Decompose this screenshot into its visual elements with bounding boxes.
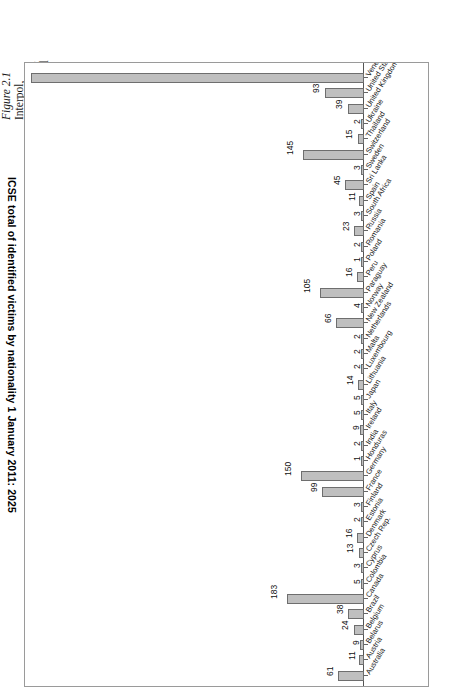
bar-value-label: 3: [353, 165, 362, 170]
bar-value-label: 99: [310, 482, 319, 491]
bar-value-label: 15: [345, 130, 354, 139]
bar-value-label: 61: [326, 666, 335, 675]
bar: [336, 318, 364, 328]
axis-tick: [364, 276, 368, 277]
bar-value-label: 66: [324, 314, 333, 323]
axis-tick: [364, 552, 368, 553]
bar-row: 2Estonia: [31, 515, 364, 529]
chart-title: ICSE total of identified victims by nati…: [2, 0, 22, 690]
bar-row: 15Thailand: [31, 132, 364, 146]
bar-value-label: 4: [353, 303, 362, 308]
axis-tick: [364, 475, 368, 476]
bar-row: 93United States: [31, 86, 364, 100]
bar-value-label: 9: [352, 640, 361, 645]
bar-row: 23Russia: [31, 224, 364, 238]
bar-row: 39United Kingdom: [31, 102, 364, 116]
bar-row: 145Switzerland: [31, 148, 364, 162]
bar-value-label: 38: [336, 605, 345, 614]
bar-value-label: 3: [353, 211, 362, 216]
bar-row: 2Luxembourg: [31, 362, 364, 376]
bar-row: 2Ukraine: [31, 117, 364, 131]
bar-row: 38Brazil: [31, 607, 364, 621]
axis-tick: [364, 184, 368, 185]
bar-value-label: 2: [353, 349, 362, 354]
bar-row: 2India: [31, 439, 364, 453]
axis-tick: [364, 200, 368, 201]
axis-tick: [364, 353, 368, 354]
bar: [31, 73, 364, 83]
axis-tick: [364, 338, 368, 339]
axis-tick: [364, 644, 368, 645]
axis-tick: [364, 567, 368, 568]
axis-tick: [364, 445, 368, 446]
axis-tick: [364, 92, 368, 93]
bar-value-label: 93: [312, 84, 321, 93]
axis-tick: [364, 583, 368, 584]
bar-row: 5Colombia: [31, 577, 364, 591]
bar-row: 1Poland: [31, 255, 364, 269]
bar: [287, 594, 364, 604]
axis-tick: [364, 675, 368, 676]
axis-tick: [364, 384, 368, 385]
bar-row: 790Venezuela: [31, 71, 364, 85]
bar-series: 61Australia11Austria9Belarus24Belgium38B…: [25, 63, 428, 686]
axis-tick: [364, 322, 368, 323]
axis-tick: [364, 292, 368, 293]
bar-value-label: 5: [353, 410, 362, 415]
axis-tick: [364, 230, 368, 231]
axis-tick: [364, 613, 368, 614]
bar-value-label: 13: [346, 544, 355, 553]
bar-row: 45Sri Lanka: [31, 178, 364, 192]
bar: [320, 288, 364, 298]
bar: [301, 471, 364, 481]
bar-value-label: 5: [353, 579, 362, 584]
axis-tick: [364, 215, 368, 216]
bar: [359, 548, 364, 558]
bar-value-label: 14: [346, 375, 355, 384]
bar: [359, 196, 364, 206]
bar: [358, 380, 364, 390]
axis-tick: [364, 154, 368, 155]
bar-row: 150Germany: [31, 469, 364, 483]
bar: [338, 671, 364, 681]
bar-row: 14Lithuania: [31, 378, 364, 392]
bar: [357, 533, 364, 543]
bar-value-label: 3: [353, 564, 362, 569]
bar-row: 3Sweden: [31, 163, 364, 177]
bar-row: 3Cyprus: [31, 561, 364, 575]
bar-row: 2Romania: [31, 240, 364, 254]
bar-value-label: 24: [341, 620, 350, 629]
bar-value-label: 5: [353, 395, 362, 400]
bar-value-label: 45: [333, 176, 342, 185]
bar: [354, 625, 364, 635]
axis-tick: [364, 169, 368, 170]
bar-value-label: 3: [353, 502, 362, 507]
bar-row: 9Belarus: [31, 638, 364, 652]
bar-row: 105Paraguay: [31, 286, 364, 300]
bar: [357, 272, 364, 282]
bar-value-label: 39: [335, 99, 344, 108]
axis-tick: [364, 414, 368, 415]
axis-tick: [364, 108, 368, 109]
axis-tick: [364, 598, 368, 599]
bar-row: 4Norway: [31, 301, 364, 315]
bar-value-label: 23: [342, 222, 351, 231]
bar: [348, 104, 364, 114]
bar-row: 1Honduras: [31, 454, 364, 468]
bar: [348, 609, 364, 619]
axis-tick: [364, 491, 368, 492]
bar-row: 183Canada: [31, 592, 364, 606]
chart-plot-area: 61Australia11Austria9Belarus24Belgium38B…: [24, 62, 429, 687]
bar: [358, 134, 364, 144]
bar-row: 16Peru: [31, 270, 364, 284]
bar-value-label: 11: [348, 192, 357, 201]
bar-row: 2Malta: [31, 347, 364, 361]
axis-tick: [364, 246, 368, 247]
bar-row: 2Netherlands: [31, 332, 364, 346]
bar: [325, 88, 364, 98]
bar-value-label: 1: [353, 456, 362, 461]
bar-row: 9Ireland: [31, 423, 364, 437]
bar-row: 5Italy: [31, 408, 364, 422]
axis-tick: [364, 659, 368, 660]
bar-value-label: 16: [345, 528, 354, 537]
